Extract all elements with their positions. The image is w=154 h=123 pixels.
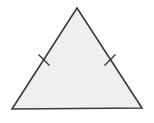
isosceles-triangle-diagram bbox=[0, 0, 154, 123]
triangle bbox=[12, 8, 142, 109]
